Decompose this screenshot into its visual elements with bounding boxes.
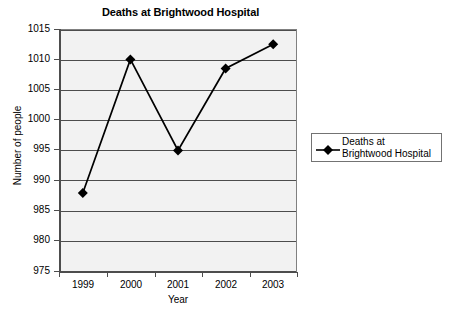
chart-title: Deaths at Brightwood Hospital bbox=[58, 6, 303, 18]
y-axis-line bbox=[59, 29, 61, 273]
y-axis-tick bbox=[54, 149, 59, 150]
y-axis-tick-label: 990 bbox=[33, 175, 50, 185]
x-axis-tick bbox=[59, 272, 60, 277]
legend-diamond-line-marker bbox=[316, 142, 340, 154]
x-axis-tick-label: 2000 bbox=[111, 279, 151, 290]
gridline bbox=[60, 120, 296, 121]
y-axis-title: Number of people bbox=[12, 86, 23, 206]
gridline bbox=[60, 241, 296, 242]
gridline bbox=[60, 150, 296, 151]
x-axis-tick bbox=[297, 272, 298, 277]
y-axis-tick bbox=[54, 180, 59, 181]
y-axis-tick-label: 995 bbox=[33, 144, 50, 154]
chart-legend: Deaths at Brightwood Hospital bbox=[311, 133, 442, 162]
y-axis-tick-label: 985 bbox=[33, 205, 50, 215]
gridline bbox=[60, 180, 296, 181]
y-axis-tick-label: 1000 bbox=[28, 114, 50, 124]
gridline bbox=[60, 30, 296, 31]
y-axis-tick bbox=[54, 29, 59, 30]
x-axis-tick bbox=[202, 272, 203, 277]
x-axis-tick bbox=[107, 272, 108, 277]
y-axis-tick-label: 975 bbox=[33, 266, 50, 276]
x-axis-tick-label: 2001 bbox=[158, 279, 198, 290]
y-axis-tick-label: 1005 bbox=[28, 84, 50, 94]
x-axis-line bbox=[59, 272, 298, 273]
gridline bbox=[60, 211, 296, 212]
gridline bbox=[60, 60, 296, 61]
line-chart: Deaths at Brightwood Hospital 1015 1010 … bbox=[0, 0, 453, 315]
y-axis-tick-label: 1015 bbox=[28, 24, 50, 34]
y-axis-tick bbox=[54, 89, 59, 90]
gridline bbox=[60, 90, 296, 91]
y-axis-tick bbox=[54, 59, 59, 60]
x-axis-tick-label: 2002 bbox=[206, 279, 246, 290]
x-axis-title: Year bbox=[59, 294, 297, 305]
y-axis-tick bbox=[54, 210, 59, 211]
legend-entry-label: Deaths at Brightwood Hospital bbox=[342, 136, 431, 159]
plot-area bbox=[59, 29, 297, 272]
x-axis-tick-label: 1999 bbox=[63, 279, 103, 290]
x-axis-tick bbox=[155, 272, 156, 277]
y-axis-tick-label: 1010 bbox=[28, 54, 50, 64]
y-axis-tick-label: 980 bbox=[33, 235, 50, 245]
x-axis-tick-label: 2003 bbox=[253, 279, 293, 290]
x-axis-tick bbox=[250, 272, 251, 277]
y-axis-tick bbox=[54, 240, 59, 241]
y-axis-tick bbox=[54, 119, 59, 120]
